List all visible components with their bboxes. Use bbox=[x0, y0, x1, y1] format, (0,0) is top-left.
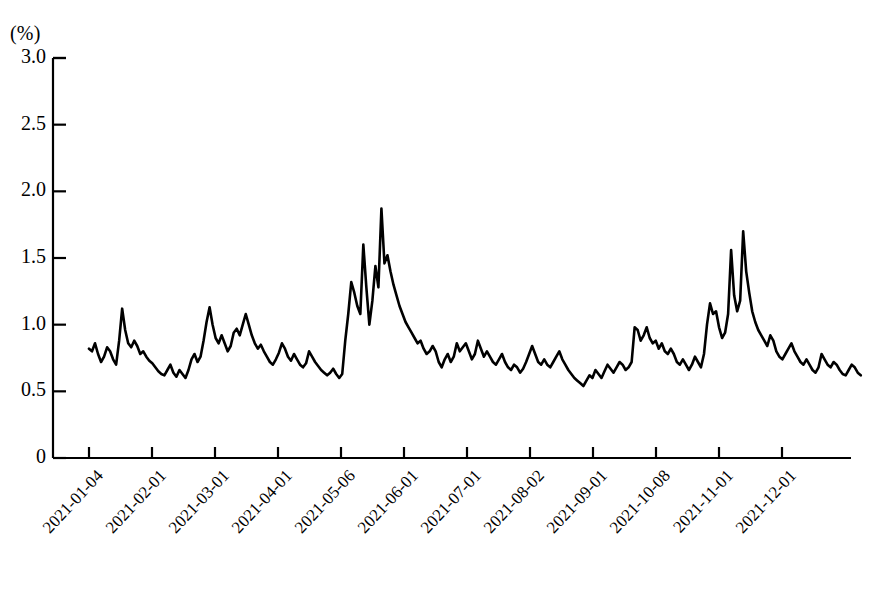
y-axis-tick-label: 0 bbox=[2, 445, 46, 468]
chart-container: (%) 00.51.01.52.02.53.0 2021-01-042021-0… bbox=[0, 0, 873, 599]
y-axis-tick-label: 2.5 bbox=[2, 112, 46, 135]
data-series-line bbox=[89, 209, 861, 386]
x-axis-ticks bbox=[89, 447, 782, 458]
y-axis-tick-label: 3.0 bbox=[2, 45, 46, 68]
y-axis-ticks bbox=[53, 58, 66, 458]
y-axis-tick-label: 1.5 bbox=[2, 245, 46, 268]
y-axis-tick-label: 0.5 bbox=[2, 378, 46, 401]
y-axis-tick-label: 1.0 bbox=[2, 312, 46, 335]
y-axis-tick-label: 2.0 bbox=[2, 178, 46, 201]
